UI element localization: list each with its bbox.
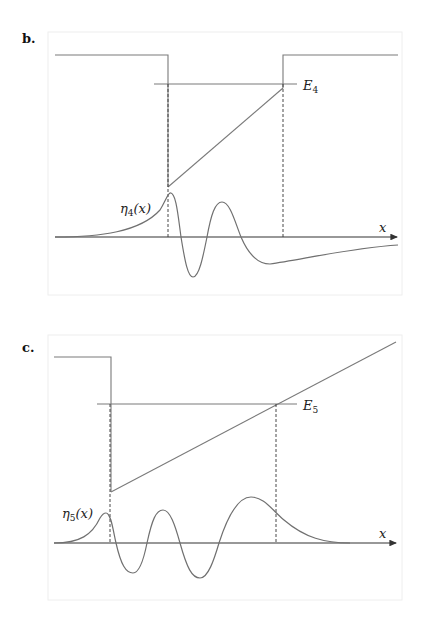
left-barrier (54, 357, 111, 492)
panel-b: b. E4 x η4(x) (22, 31, 402, 295)
sloped-potential (111, 342, 396, 492)
panel-c-frame (48, 335, 402, 600)
panel-b-frame (48, 32, 402, 295)
energy-label: E4 (302, 78, 319, 95)
wavefunction-label: η5(x) (62, 506, 93, 523)
sloped-potential (168, 88, 283, 187)
right-barrier (283, 55, 398, 88)
wavefunction-eta4 (55, 193, 398, 277)
diagram-canvas: b. E4 x η4(x) c. E5 x (0, 0, 422, 630)
panel-c: c. E5 x η5(x) (22, 335, 402, 600)
energy-label: E5 (302, 398, 319, 415)
left-barrier (55, 55, 168, 187)
wavefunction-label: η4(x) (120, 201, 151, 218)
x-axis-label: x (379, 220, 387, 235)
wavefunction-eta5 (54, 497, 350, 578)
panel-c-label: c. (22, 340, 34, 355)
x-axis-label: x (379, 526, 387, 541)
panel-b-label: b. (22, 31, 36, 46)
